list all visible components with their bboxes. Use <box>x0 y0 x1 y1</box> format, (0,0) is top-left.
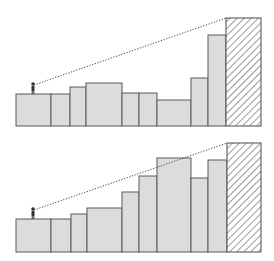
person-leg-icon <box>33 216 34 219</box>
building <box>191 178 208 252</box>
building <box>16 219 51 252</box>
observer-person-icon <box>31 207 35 219</box>
building <box>208 35 226 126</box>
person-leg-icon <box>33 91 34 94</box>
building <box>71 214 87 252</box>
person-leg-icon <box>32 216 33 219</box>
building <box>157 100 191 126</box>
observer-person-icon <box>31 82 35 94</box>
person-body-icon <box>32 211 35 216</box>
building <box>86 83 122 126</box>
building <box>122 93 139 126</box>
person-head-icon <box>31 207 35 211</box>
bottom-panel <box>16 143 261 252</box>
building <box>16 94 51 126</box>
sightline-dotted <box>34 18 226 85</box>
building <box>87 208 122 252</box>
building <box>139 176 157 252</box>
top-panel <box>16 18 261 126</box>
target-building-hatched <box>227 143 261 252</box>
target-building-hatched <box>226 18 261 126</box>
person-leg-icon <box>32 91 33 94</box>
building <box>51 219 71 252</box>
building <box>208 160 227 252</box>
person-head-icon <box>31 82 35 86</box>
building <box>51 94 70 126</box>
building <box>70 87 86 126</box>
diagram-stage <box>0 0 274 261</box>
building <box>157 158 191 252</box>
person-body-icon <box>32 86 35 91</box>
building <box>191 78 208 126</box>
building <box>139 93 157 126</box>
skyline-visibility-diagram <box>0 0 274 261</box>
building <box>122 192 139 252</box>
